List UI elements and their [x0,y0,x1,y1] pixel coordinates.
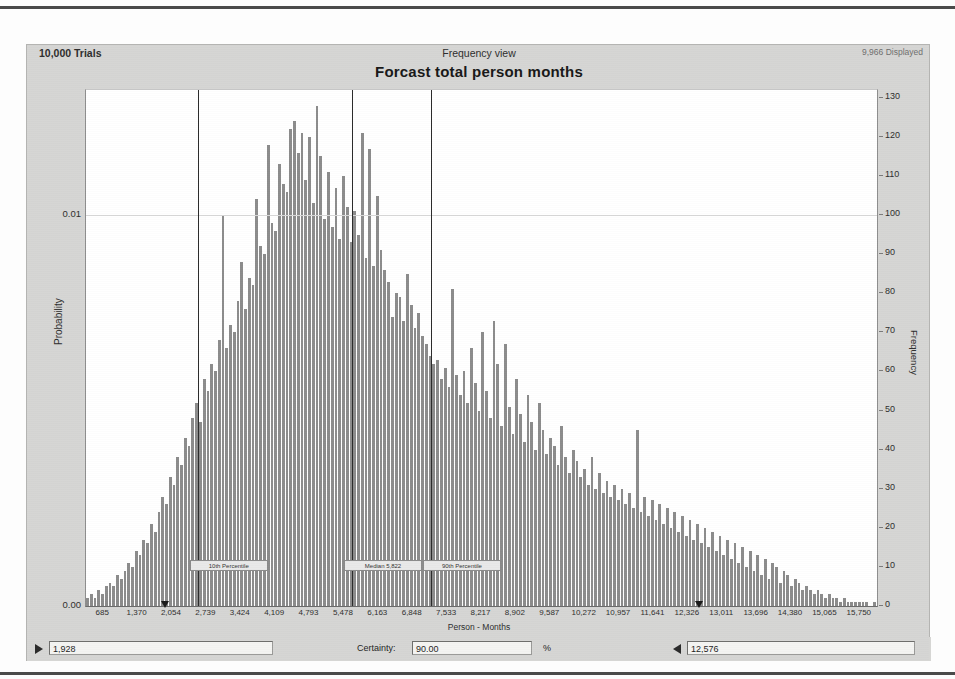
view-mode-label: Frequency view [27,47,931,59]
x-axis-tick-label: 6,848 [402,608,422,617]
x-axis-tick-label: 12,326 [675,608,699,617]
y-axis-right-tick [879,292,883,293]
x-axis-tick-label: 4,109 [264,608,284,617]
y-axis-right-tick-label: 70 [885,325,895,335]
y-axis-right-tick-label: 130 [885,91,900,101]
certainty-input[interactable]: 90.00 [412,641,532,655]
y-axis-right-tick-label: 10 [885,560,895,570]
x-axis-tick-label: 6,163 [367,608,387,617]
y-axis-right-tick-label: 50 [885,404,895,414]
page-bottom-rule [0,672,955,675]
y-axis-right-tick [879,566,883,567]
upper-bound-marker[interactable] [695,601,703,608]
percent-label: % [543,641,551,655]
x-axis-tick-label: 13,011 [709,608,733,617]
x-axis-tick-label: 15,750 [847,608,871,617]
y-axis-right-tick [879,527,883,528]
reference-line[interactable] [431,90,432,606]
displayed-count-label: 9,966 Displayed [862,47,923,57]
y-axis-right-tick-label: 40 [885,443,895,453]
y-axis-left-tick-label: 0.01 [63,208,82,219]
y-axis-right-tick-label: 0 [885,599,890,609]
x-axis-tick-label: 8,902 [505,608,525,617]
reference-line[interactable] [198,90,199,606]
histogram-bars [86,90,877,606]
y-axis-right-tick [879,370,883,371]
x-axis-tick-label: 9,587 [539,608,559,617]
y-axis-right-tick [879,214,883,215]
x-axis-tick-label: 1,370 [127,608,147,617]
x-axis-tick-label: 2,054 [161,608,181,617]
y-axis-right-tick-label: 110 [885,169,899,179]
certainty-label: Certainty: [357,641,396,655]
x-axis-tick-label: 14,380 [778,608,802,617]
scanned-page: 10,000 Trials Frequency view 9,966 Displ… [0,0,955,679]
x-axis-tick-label: 8,217 [470,608,490,617]
y-axis-right-tick-label: 80 [885,286,895,296]
y-axis-right: 0102030405060708090100110120130 [879,89,929,607]
upper-bound-input[interactable]: 12,576 [687,641,915,655]
y-axis-right-tick-label: 30 [885,482,895,492]
upper-grabber-icon[interactable] [673,644,681,654]
y-axis-right-tick-label: 120 [885,130,900,140]
x-axis-tick-label: 15,065 [812,608,836,617]
y-axis-right-tick [879,410,883,411]
y-axis-right-tick [879,449,883,450]
x-axis-tick-label: 5,478 [333,608,353,617]
gridline [86,215,877,216]
forecast-chart-window: 10,000 Trials Frequency view 9,966 Displ… [26,44,930,661]
x-axis-tick-label: 10,957 [606,608,630,617]
x-axis-tick-label: 2,739 [195,608,215,617]
reference-line-label: Median 5,822 [344,560,422,571]
y-axis-right-tick [879,488,883,489]
x-axis-tick-label: 3,424 [230,608,250,617]
y-axis-right-tick-label: 90 [885,247,895,257]
chart-header: 10,000 Trials Frequency view 9,966 Displ… [27,45,931,63]
y-axis-left-tick-label: 0.00 [63,599,82,610]
reference-line-label: 10th Percentile [190,560,268,571]
x-axis-tick-label: 10,272 [571,608,595,617]
y-axis-right-tick [879,97,883,98]
reference-line[interactable] [352,90,353,606]
y-axis-right-tick-label: 100 [885,208,900,218]
y-axis-right-tick [879,175,883,176]
x-axis-tick-label: 13,696 [743,608,767,617]
x-axis-tick-label: 685 [95,608,108,617]
y-axis-right-tick [879,136,883,137]
page-title: Forcast total person months [27,63,931,80]
histogram-bar [865,602,869,606]
x-axis-tick-label: 11,641 [641,608,665,617]
y-axis-left: 0.000.01 [35,89,81,607]
x-axis-tick-label: 7,533 [436,608,456,617]
x-axis-title: Person - Months [27,622,931,632]
reference-line-label: 90th Percentile [423,560,501,571]
histogram-plot-area: 10th PercentileMedian 5,82290th Percenti… [85,89,878,607]
lower-bound-input[interactable]: 1,928 [49,641,273,655]
histogram-bar [873,602,877,606]
certainty-control-bar: 1,928 Certainty: 90.00 % 12,576 [27,637,931,661]
x-axis-tick-label: 4,793 [298,608,318,617]
page-top-rule [0,6,955,9]
y-axis-right-tick [879,331,883,332]
x-axis-ticks: 6851,3702,0542,7393,4244,1094,7935,4786,… [85,608,878,622]
y-axis-right-tick [879,605,883,606]
lower-grabber-icon[interactable] [35,644,43,654]
y-axis-right-tick [879,253,883,254]
y-axis-right-title: Frequency [909,330,920,375]
y-axis-right-tick-label: 60 [885,364,895,374]
y-axis-right-tick-label: 20 [885,521,895,531]
lower-bound-marker[interactable] [161,601,169,608]
